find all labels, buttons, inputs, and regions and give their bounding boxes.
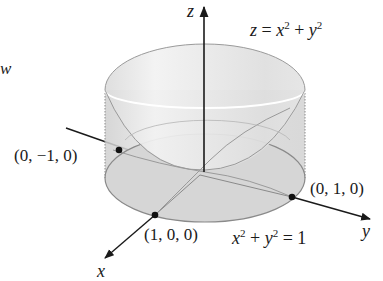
eq-equals: = (262, 20, 272, 40)
point-0-1-0 (289, 194, 296, 201)
cyl-rhs: 1 (297, 228, 306, 248)
y-axis-label: y (362, 222, 370, 240)
point-0-neg1-0 (116, 147, 123, 154)
cyl-var-x: x (232, 228, 240, 248)
cyl-var-y: y (265, 228, 273, 248)
z-axis-label: z (187, 2, 194, 20)
cropped-text-fragment: w (0, 60, 11, 77)
eq-exp-x: 2 (284, 19, 290, 31)
point-1-0-0 (152, 212, 159, 219)
eq-plus: + (294, 20, 304, 40)
eq-var-y: y (309, 20, 317, 40)
eq-var-z: z (250, 20, 257, 40)
cyl-equals: = (283, 228, 293, 248)
eq-var-x: x (276, 20, 284, 40)
cyl-plus: + (250, 228, 260, 248)
paraboloid-cylinder-figure: w z y x z = x2 + y2 x2 + y2 = 1 (0, −1, … (0, 0, 383, 281)
paraboloid-equation: z = x2 + y2 (250, 20, 322, 39)
point-label-1-0-0: (1, 0, 0) (144, 226, 198, 243)
eq-exp-y: 2 (317, 19, 323, 31)
point-label-0-neg1-0: (0, −1, 0) (14, 147, 77, 164)
x-axis-label: x (97, 262, 105, 280)
y-axis-positive (292, 197, 370, 219)
cyl-exp-x: 2 (240, 227, 246, 239)
point-label-0-1-0: (0, 1, 0) (310, 180, 364, 197)
cylinder-equation: x2 + y2 = 1 (232, 228, 306, 247)
cyl-exp-y: 2 (273, 227, 279, 239)
